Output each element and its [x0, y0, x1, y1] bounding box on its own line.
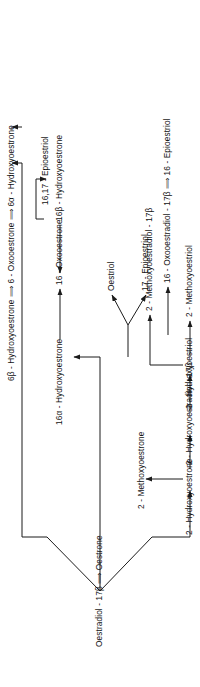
- node-2-methoxyoestriol: 2 - Methoxyoestriol: [186, 245, 194, 317]
- node-root: Oestradiol - 17β ⟹ Oestrone: [96, 535, 104, 647]
- figure-canvas: Oestradiol - 17β ⟹ Oestrone 2 - Hydroxyo…: [0, 0, 200, 687]
- node-oestriol: Oestriol: [108, 262, 116, 291]
- node-17-epioestriol: 17 - Epioestriol: [142, 234, 150, 291]
- node-2-methoxyoestrone: 2 - Methoxyoestrone: [138, 432, 146, 510]
- node-1617-epioestriol: 16,17 - Epioestriol: [42, 136, 50, 205]
- node-2-hydroxyoestrone: 2 - Hydroxyoestrone: [186, 458, 194, 535]
- node-16b-hydroxyoestrone: 16β - Hydroxyoestrone: [56, 135, 64, 221]
- pathway-diagram: Oestradiol - 17β ⟹ Oestrone 2 - Hydroxyo…: [0, 0, 200, 687]
- node-16-oxooestrone: 16 - Oxooestrone: [56, 219, 64, 285]
- node-2-hydroxyoestriol: 2 - Hydroxyoestriol: [186, 338, 194, 409]
- node-16a-hydroxyoestrone: 16α - Hydroxyoestrone: [56, 339, 64, 425]
- node-6-hydroxy-oestrone-chain: 6β - Hydroxyoestrone ⟹ 6 - Oxooestrone ⟹…: [8, 125, 16, 381]
- node-16-oxooestradiol: 16 - Oxooestradiol - 17β ⟹ 16 - Epioestr…: [164, 118, 172, 283]
